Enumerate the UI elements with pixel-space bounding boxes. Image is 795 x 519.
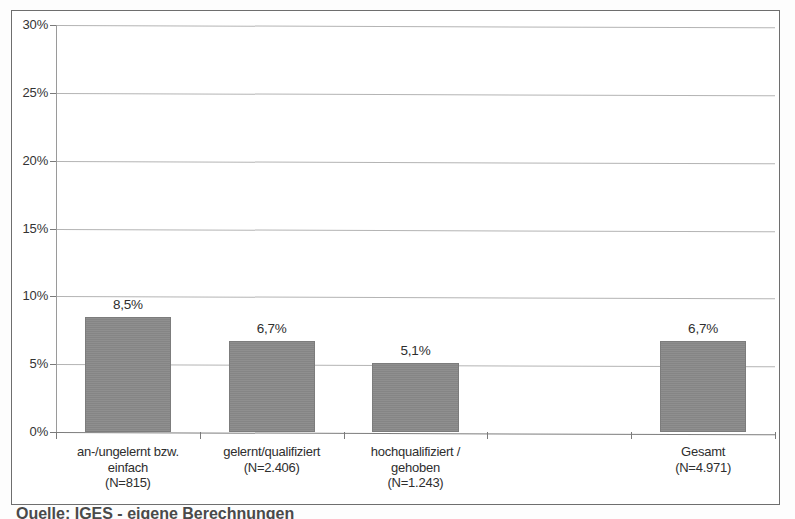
bar[interactable]: [85, 317, 171, 432]
x-tick-mark: [56, 432, 57, 439]
x-axis-category-label: Gesamt (N=4.971): [623, 444, 783, 475]
x-tick-mark: [487, 432, 488, 439]
y-axis-tick-label: 5%: [8, 357, 48, 370]
y-axis-line: [56, 25, 57, 433]
x-axis-category-label: an-/ungelernt bzw. einfach (N=815): [48, 444, 208, 491]
y-axis-tick-label: 20%: [8, 154, 48, 167]
x-tick-mark: [344, 432, 345, 439]
y-axis: 0%5%10%15%20%25%30%: [0, 0, 48, 495]
x-tick-mark: [200, 432, 201, 439]
bar[interactable]: [660, 341, 746, 432]
x-tick-mark: [775, 432, 776, 439]
y-axis-tick-label: 0%: [8, 425, 48, 438]
page-background: 0%5%10%15%20%25%30% 8,5%an-/ungelernt bz…: [0, 0, 795, 519]
x-axis-category-label: gelernt/qualifiziert (N=2.406): [192, 444, 352, 475]
bar-value-label: 5,1%: [344, 344, 488, 358]
bar[interactable]: [229, 341, 315, 432]
source-caption: Quelle: IGES - eigene Berechnungen: [16, 505, 294, 519]
x-axis-category-label: hochqualifiziert / gehoben (N=1.243): [336, 444, 496, 491]
y-axis-tick-label: 10%: [8, 289, 48, 302]
bar[interactable]: [372, 363, 458, 432]
bar-value-label: 8,5%: [56, 298, 200, 312]
x-tick-mark: [631, 432, 632, 439]
bar-value-label: 6,7%: [631, 322, 775, 336]
y-axis-tick-label: 15%: [8, 222, 48, 235]
y-axis-tick-label: 25%: [8, 86, 48, 99]
y-axis-tick-label: 30%: [8, 18, 48, 31]
bar-value-label: 6,7%: [200, 322, 344, 336]
